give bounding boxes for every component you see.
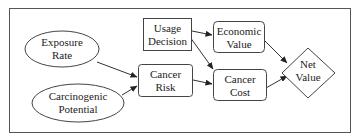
node-usage-decision[interactable]: Usage Decision: [144, 19, 192, 51]
node-label-line2: Potential: [58, 103, 97, 115]
node-cancer-cost[interactable]: Cancer Cost: [214, 70, 267, 101]
node-label-line1: Cancer: [150, 68, 181, 80]
node-exposure-rate[interactable]: Exposure Rate: [25, 31, 99, 67]
node-label-line2: Risk: [155, 81, 176, 93]
node-cancer-risk[interactable]: Cancer Risk: [139, 65, 193, 97]
node-label-line2: Value: [226, 38, 251, 50]
node-label-line1: Net: [300, 58, 316, 70]
node-label-line1: Exposure: [41, 36, 83, 48]
node-label-line2: Cost: [230, 86, 250, 98]
node-label-line1: Carcinogenic: [49, 90, 108, 102]
node-net-value[interactable]: Net Value: [282, 48, 335, 98]
node-label-line2: Rate: [52, 49, 72, 61]
node-carcinogenic-potential[interactable]: Carcinogenic Potential: [32, 84, 124, 122]
edge-usage-to-cost: [190, 37, 213, 69]
edge-usage-to-economic: [192, 31, 212, 35]
node-label-line2: Value: [295, 71, 320, 83]
influence-diagram: Exposure Rate Carcinogenic Potential Usa…: [0, 0, 362, 136]
node-label-line1: Economic: [217, 25, 262, 37]
edge-risk-to-cost: [193, 80, 212, 84]
node-label-line1: Cancer: [224, 73, 255, 85]
edge-carcinogenic-to-risk: [122, 86, 137, 95]
node-economic-value[interactable]: Economic Value: [214, 22, 265, 53]
edge-exposure-to-risk: [97, 62, 137, 77]
edge-cost-to-net: [266, 76, 287, 88]
edge-economic-to-net: [264, 40, 287, 63]
node-label-line1: Usage: [154, 22, 182, 34]
node-label-line2: Decision: [148, 35, 188, 47]
